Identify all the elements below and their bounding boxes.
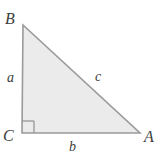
vertex-label-c: C — [3, 128, 14, 144]
side-label-c: c — [95, 70, 101, 84]
vertex-label-b: B — [5, 11, 15, 27]
triangle-shape — [22, 25, 140, 133]
side-label-a: a — [7, 71, 14, 85]
vertex-label-a: A — [144, 129, 154, 145]
right-triangle-figure: B A C a b c — [0, 0, 162, 162]
triangle-graphic — [0, 0, 162, 162]
side-label-b: b — [69, 140, 76, 154]
